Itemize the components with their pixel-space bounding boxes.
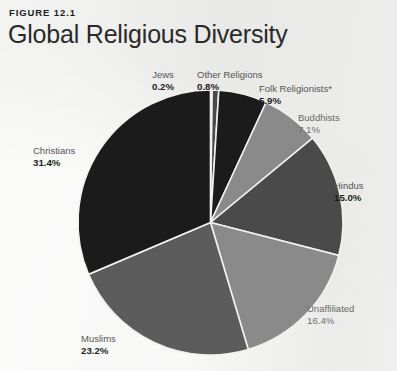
- callout-christians-value: 31.4%: [33, 157, 75, 169]
- callout-unaffiliated-value: 16.4%: [307, 315, 354, 327]
- figure-container: FIGURE 12.1 Global Religious Diversity J…: [0, 0, 397, 371]
- callout-other-religions: Other Religions 0.8%: [197, 69, 262, 94]
- callout-hindus-value: 15.0%: [334, 192, 364, 204]
- callout-christians-label: Christians: [33, 145, 75, 157]
- callout-buddhists-label: Buddhists: [298, 112, 340, 124]
- callout-folk-religionists: Folk Religionists* 5.9%: [259, 83, 332, 108]
- callout-other-religions-value: 0.8%: [197, 81, 262, 93]
- callout-muslims-label: Muslims: [81, 333, 116, 345]
- callout-jews-value: 0.2%: [152, 81, 174, 93]
- callout-other-religions-label: Other Religions: [197, 69, 262, 81]
- callout-buddhists-value: 7.1%: [298, 124, 340, 136]
- callout-buddhists: Buddhists 7.1%: [298, 112, 340, 137]
- callout-hindus-label: Hindus: [334, 180, 364, 192]
- callout-folk-religionists-value: 5.9%: [259, 95, 332, 107]
- callout-unaffiliated-label: Unaffiliated: [307, 303, 354, 315]
- callout-christians: Christians 31.4%: [33, 145, 75, 170]
- callout-unaffiliated: Unaffiliated 16.4%: [307, 303, 354, 328]
- callout-jews-label: Jews: [152, 69, 174, 81]
- callout-hindus: Hindus 15.0%: [334, 180, 364, 205]
- callout-folk-religionists-label: Folk Religionists*: [259, 83, 332, 95]
- callout-muslims-value: 23.2%: [81, 345, 116, 357]
- callout-muslims: Muslims 23.2%: [81, 333, 116, 358]
- callout-jews: Jews 0.2%: [152, 69, 174, 94]
